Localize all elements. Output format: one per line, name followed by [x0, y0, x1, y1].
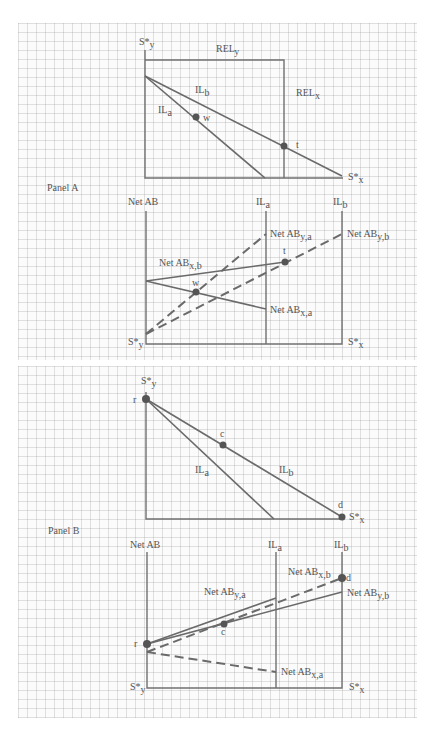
point-c-label: c [221, 626, 226, 637]
point-t [281, 143, 288, 150]
x-axis-label: S*x [348, 336, 364, 350]
net-ab-x-a-label: Net ABx,a [281, 666, 324, 680]
rel-x-label: RELx [296, 87, 320, 101]
net-ab-x-b-top-label: Net ABx,b [288, 566, 331, 580]
il-b-label: ILb [195, 84, 209, 98]
point-t [282, 259, 289, 266]
point-w [193, 114, 200, 121]
point-w-label: w [203, 112, 211, 123]
point-r-label: r [134, 638, 138, 649]
il-b-label: ILb [279, 464, 293, 478]
net-ab-axis-label: Net AB [128, 196, 159, 207]
point-r [143, 640, 151, 648]
origin-y-label: S*y [128, 336, 144, 350]
line-il-a [146, 399, 274, 519]
panel-b-bottom-chart: Net AB ILa ILb Net ABx,b d Net ABy,a Net… [130, 539, 389, 695]
net-ab-y-a-line [147, 598, 276, 644]
point-t-label: t [296, 139, 299, 150]
origin-y-label: S*y [130, 681, 146, 695]
il-a-label: ILa [195, 464, 209, 478]
rel-boundary [145, 60, 284, 178]
rel-y-label: RELy [216, 43, 239, 57]
diagram-canvas: S*y RELy RELx ILb ILa w t S*x Panel A Ne… [0, 0, 436, 733]
il-a-label: ILa [158, 104, 172, 118]
net-ab-x-a-line [147, 652, 276, 672]
x-axis-label: S*x [348, 171, 364, 185]
y-axis-label: S*y [141, 375, 157, 389]
y-axis-label: S*y [139, 36, 155, 50]
panel-b-label: Panel B [48, 525, 80, 536]
net-ab-x-a-label: Net ABx,a [270, 304, 313, 318]
point-d-label: d [338, 499, 343, 510]
point-d-label: d [346, 572, 351, 583]
point-d [339, 514, 346, 521]
point-w [193, 289, 200, 296]
point-r [142, 395, 150, 403]
panel-a-bottom-chart: Net AB ILa ILb Net ABy,a Net ABy,b Net A… [128, 196, 389, 350]
point-t-label: t [283, 245, 286, 256]
panel-a-top-axes [145, 50, 343, 178]
il-b-column-label: ILb [333, 196, 347, 210]
point-w-label: w [192, 277, 200, 288]
il-a-column-label: ILa [268, 539, 282, 553]
x-axis-label: S*x [349, 681, 365, 695]
net-ab-y-b-label: Net ABy,b [347, 587, 389, 601]
x-axis-label: S*x [349, 511, 365, 525]
point-r-label: r [133, 394, 137, 405]
panel-a-label: Panel A [47, 182, 79, 193]
panel-b-top-chart: S*y r c d ILa ILb S*x [133, 375, 365, 525]
net-ab-y-a-line [146, 234, 266, 334]
panel-a-top-chart: S*y RELy RELx ILb ILa w t S*x [139, 36, 364, 185]
net-ab-x-b-label: Net ABx,b [159, 257, 202, 271]
line-il-b [146, 399, 342, 517]
il-a-column-label: ILa [256, 196, 270, 210]
net-ab-y-a-label: Net ABy,a [204, 586, 246, 600]
net-ab-y-b-label: Net ABy,b [347, 228, 389, 242]
point-c [220, 442, 227, 449]
net-ab-axis-label: Net AB [130, 539, 161, 550]
il-b-column-label: ILb [334, 539, 348, 553]
net-ab-y-a-label: Net ABy,a [270, 228, 312, 242]
net-ab-y-b-line [146, 234, 342, 334]
point-d [338, 574, 346, 582]
point-c-label: c [220, 428, 225, 439]
